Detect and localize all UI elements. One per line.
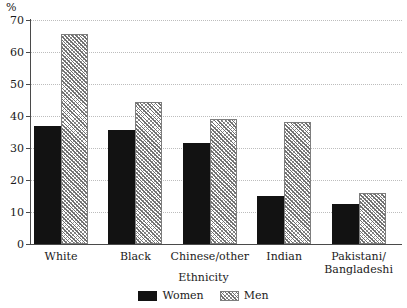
bar-men: [210, 119, 237, 244]
y-tick-mark: [26, 20, 30, 21]
legend-swatch-women-icon: [138, 291, 157, 301]
y-tick-mark: [26, 148, 30, 149]
plot-inner: 010203040506070: [30, 19, 402, 245]
y-tick-mark: [26, 180, 30, 181]
y-tick-label: 60: [10, 47, 24, 58]
y-tick-mark: [26, 116, 30, 117]
bar-women: [332, 204, 359, 244]
bar-women: [34, 126, 61, 244]
legend-item-men: Men: [220, 290, 269, 301]
bar-men: [284, 122, 311, 244]
y-tick-mark: [26, 84, 30, 85]
y-tick-mark: [26, 212, 30, 213]
bar-women: [183, 143, 210, 244]
y-tick-label: 50: [10, 79, 24, 90]
x-axis-title: Ethnicity: [0, 272, 407, 284]
legend-item-women: Women: [138, 290, 203, 301]
legend-label-women: Women: [162, 290, 203, 301]
y-tick-label: 70: [10, 15, 24, 26]
plot-area: 010203040506070: [30, 19, 402, 245]
bar-group: [257, 19, 311, 244]
y-tick-mark: [26, 244, 30, 245]
bar-men: [359, 193, 386, 244]
bar-group: [183, 19, 237, 244]
y-tick-mark: [26, 52, 30, 53]
bar-group: [34, 19, 88, 244]
bar-group: [332, 19, 386, 244]
y-tick-label: 20: [10, 175, 24, 186]
y-tick-label: 0: [17, 239, 24, 250]
bar-men: [61, 34, 88, 244]
bar-women: [257, 196, 284, 244]
x-axis-line: [30, 244, 402, 245]
bar-men: [135, 102, 162, 244]
bar-chart: % 010203040506070 WhiteBlackChinese/othe…: [0, 0, 407, 308]
legend-swatch-men-icon: [220, 291, 239, 301]
bar-women: [108, 130, 135, 244]
y-axis-unit-label: %: [6, 2, 16, 13]
chart-legend: Women Men: [0, 290, 407, 301]
y-tick-label: 40: [10, 111, 24, 122]
bar-group: [108, 19, 162, 244]
y-tick-label: 30: [10, 143, 24, 154]
y-tick-label: 10: [10, 207, 24, 218]
legend-label-men: Men: [244, 290, 269, 301]
